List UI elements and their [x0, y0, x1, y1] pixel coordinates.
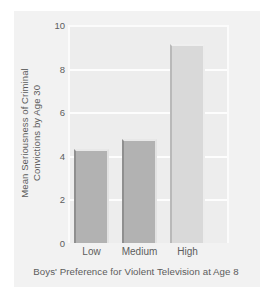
x-tick-label-high: High — [177, 246, 198, 257]
bar-high[interactable] — [170, 44, 205, 243]
y-tick-label: 2 — [60, 194, 65, 205]
page-margin-right — [260, 0, 272, 297]
y-tick-label: 0 — [60, 238, 65, 249]
page-margin-bottom — [0, 287, 272, 297]
x-tick-label-medium: Medium — [122, 246, 158, 257]
y-tick-label: 6 — [60, 107, 65, 118]
bar-medium-body — [122, 139, 157, 243]
y-axis-title-line1: Mean Seriousness of Criminal — [19, 68, 30, 198]
y-axis-tick-labels: 10 8 6 4 2 0 — [44, 0, 65, 297]
chart-figure: Mean Seriousness of Criminal Convictions… — [0, 0, 272, 297]
bar-medium[interactable] — [122, 139, 157, 243]
page-margin-left — [0, 0, 14, 297]
plot-area — [68, 25, 229, 243]
y-tick-label: 8 — [60, 63, 65, 74]
x-axis-tick-labels: Low Medium High — [68, 246, 229, 260]
x-tick-label-low: Low — [82, 246, 100, 257]
y-tick-label: 4 — [60, 150, 65, 161]
y-tick-label: 10 — [54, 20, 65, 31]
gridline-10 — [68, 25, 229, 27]
bar-high-body — [170, 44, 205, 243]
y-axis-title: Mean Seriousness of Criminal Convictions… — [14, 24, 48, 242]
y-axis-title-line2: Convictions by Age 30 — [31, 24, 43, 242]
x-axis-title: Boys' Preference for Violent Television … — [0, 266, 272, 277]
bar-low[interactable] — [74, 149, 109, 243]
page-margin-top — [0, 0, 272, 11]
bar-low-body — [74, 149, 109, 243]
